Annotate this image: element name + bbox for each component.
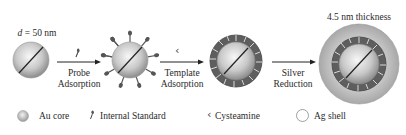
probe-adsorption-arrow bbox=[57, 59, 101, 65]
legend-au-core-label: Au core bbox=[39, 111, 69, 122]
internal-standard-icon bbox=[89, 110, 94, 120]
ag-shell-particle bbox=[318, 23, 400, 105]
diameter-value: = 50 nm bbox=[22, 28, 56, 38]
template-adsorption-line2: Adsorption bbox=[150, 79, 214, 90]
silver-reduction-arrow bbox=[272, 59, 316, 65]
silver-reduction-line1: Silver bbox=[264, 68, 322, 79]
silver-reduction-label: Silver Reduction bbox=[264, 68, 322, 90]
diameter-label: d = 50 nm bbox=[12, 28, 62, 39]
cysteamine-icon: ‹ bbox=[207, 108, 211, 121]
ag-shell-icon bbox=[296, 109, 309, 122]
cysteamine-reagent-icon: ‹ bbox=[175, 44, 179, 57]
au-core-icon bbox=[17, 110, 29, 122]
template-adsorbed-particle bbox=[208, 33, 264, 89]
legend-ag-shell-label: Ag shell bbox=[314, 111, 346, 122]
legend-cysteamine-label: Cysteamine bbox=[215, 111, 260, 122]
template-adsorption-arrow bbox=[160, 59, 204, 65]
thickness-label: 4.5 nm thickness bbox=[318, 12, 400, 23]
template-adsorption-label: Template Adsorption bbox=[150, 68, 214, 90]
template-adsorption-line1: Template bbox=[150, 68, 214, 79]
internal-standard-reagent-icon bbox=[74, 48, 80, 58]
silver-reduction-line2: Reduction bbox=[264, 79, 322, 90]
legend-internal-standard-label: Internal Standard bbox=[100, 111, 166, 122]
au-core-particle bbox=[12, 41, 50, 79]
